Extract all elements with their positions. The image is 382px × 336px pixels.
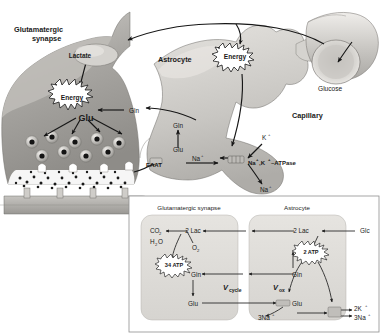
inset-header-astrocyte: Astrocyte xyxy=(284,204,310,211)
inset-lac-astro: 2 Lac xyxy=(293,227,309,234)
pump-k: ,K xyxy=(259,160,266,166)
receptor xyxy=(122,188,128,198)
inset-label-34atp: 34 ATP xyxy=(165,262,184,268)
label-k-text: K xyxy=(262,134,267,141)
label-energy-neuron: Energy xyxy=(61,94,84,102)
inset-lac-neuron: 2 Lac xyxy=(185,227,201,234)
inset-glu-transporter xyxy=(276,300,290,306)
inset-header-neuron: Glutamatergic synapse xyxy=(157,204,221,211)
inset-h2o-end: O xyxy=(158,238,163,245)
inset-3na-out: 3Na xyxy=(354,314,366,321)
inset-glu-neuron: Glu xyxy=(188,300,198,307)
label-na-influx-text: Na xyxy=(192,155,201,162)
inset-vox-sub: ox xyxy=(279,287,285,293)
astrocyte-neuron-diagram: Glutamatergic synapse Astrocyte Capillar… xyxy=(0,0,382,336)
pump-atpase: –ATPase xyxy=(271,160,297,166)
label-gln-astrocyte: Gln xyxy=(173,122,183,129)
label-glu-presynaptic: Glu xyxy=(79,113,94,123)
inset-glc: Glc xyxy=(360,227,370,234)
inset-glu-astro: Glu xyxy=(292,300,302,307)
label-energy-astrocyte: Energy xyxy=(224,53,247,61)
label-lactate: Lactate xyxy=(69,52,92,59)
inset-3na-in: 3Na xyxy=(258,314,270,321)
na-k-atpase-pump xyxy=(228,156,244,163)
label-glucose: Glucose xyxy=(318,85,343,92)
label-na-efflux-text: Na xyxy=(260,186,269,193)
lumen-inner xyxy=(318,45,354,79)
inset-na-k-pump xyxy=(328,307,341,317)
inset-2k: 2K xyxy=(354,305,363,312)
receptor xyxy=(57,188,63,198)
receptor xyxy=(24,188,30,198)
inset-label-2atp: 2 ATP xyxy=(303,249,318,255)
label-glu-astrocyte: Glu xyxy=(173,146,183,153)
inset-panel: Glutamatergic synapse Astrocyte xyxy=(129,196,379,332)
label-eaat: EAAT xyxy=(146,162,162,168)
fusing-vesicle xyxy=(100,164,108,173)
label-synapse-line2: synapse xyxy=(32,34,61,43)
label-glutamatergic-synapse: Glutamatergic xyxy=(14,25,63,34)
fusing-vesicle xyxy=(38,164,46,173)
label-capillary: Capillary xyxy=(292,111,324,120)
inset-gln-neuron: Gln xyxy=(191,271,201,278)
fusing-vesicle xyxy=(69,164,77,173)
inset-gln-astro: Gln xyxy=(292,271,302,278)
inset-vcycle-sub: cycle xyxy=(229,287,242,293)
receptor xyxy=(90,188,96,198)
fusing-vesicle xyxy=(125,162,133,171)
label-gln-presynaptic: Gln xyxy=(129,107,139,114)
label-astrocyte: Astrocyte xyxy=(158,55,192,64)
figure-container: Glutamatergic synapse Astrocyte Capillar… xyxy=(0,0,382,336)
